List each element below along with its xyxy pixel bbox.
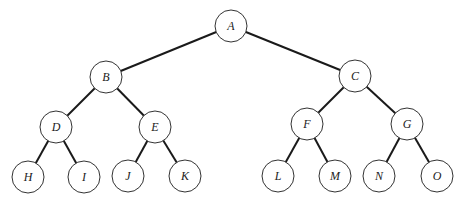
tree-node-k: K xyxy=(169,160,201,192)
edge-a-c xyxy=(231,26,355,76)
node-label: N xyxy=(374,169,384,183)
tree-node-h: H xyxy=(12,161,44,193)
node-label: H xyxy=(23,170,34,184)
tree-node-l: L xyxy=(262,160,294,192)
tree-node-n: N xyxy=(363,160,395,192)
tree-node-g: G xyxy=(391,108,423,140)
node-label: O xyxy=(433,169,442,183)
binary-tree-diagram: ABCDEFGHIJKLMNO xyxy=(0,0,461,206)
tree-node-i: I xyxy=(68,161,100,193)
tree-node-d: D xyxy=(40,111,72,143)
node-label: G xyxy=(403,117,412,131)
edge-a-b xyxy=(106,26,231,77)
tree-node-m: M xyxy=(319,160,351,192)
tree-node-f: F xyxy=(291,108,323,140)
node-label: M xyxy=(329,169,341,183)
tree-nodes: ABCDEFGHIJKLMNO xyxy=(12,10,453,193)
node-label: C xyxy=(351,69,360,83)
node-label: A xyxy=(226,19,235,33)
node-label: K xyxy=(180,169,190,183)
node-label: J xyxy=(125,169,131,183)
tree-node-a: A xyxy=(215,10,247,42)
tree-node-c: C xyxy=(339,60,371,92)
node-label: F xyxy=(302,117,311,131)
node-label: D xyxy=(51,120,61,134)
tree-node-j: J xyxy=(112,160,144,192)
tree-node-b: B xyxy=(90,61,122,93)
tree-edges xyxy=(28,26,437,177)
tree-node-o: O xyxy=(421,160,453,192)
node-label: E xyxy=(150,120,159,134)
node-label: B xyxy=(102,70,110,84)
node-label: L xyxy=(274,169,282,183)
tree-node-e: E xyxy=(139,111,171,143)
